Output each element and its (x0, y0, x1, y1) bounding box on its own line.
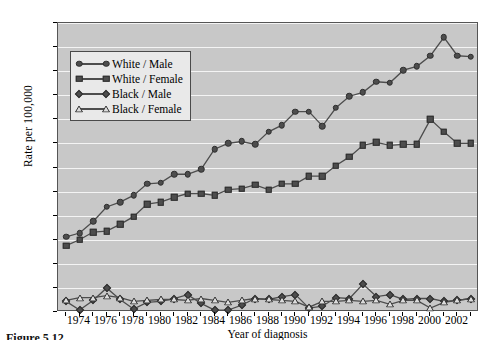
series-marker (103, 228, 110, 235)
legend-label: White / Male (112, 57, 173, 71)
legend-marker (103, 75, 110, 82)
x-axis-tick-mark (375, 312, 376, 316)
series-marker (90, 218, 97, 225)
legend-marker (76, 60, 83, 67)
series-marker (387, 79, 394, 86)
series-marker (224, 299, 232, 306)
x-axis-tick-mark (402, 312, 403, 316)
series-marker (252, 141, 259, 148)
series-marker (373, 79, 380, 86)
series-marker (238, 185, 245, 192)
x-axis-tick-mark (133, 312, 134, 316)
series-marker (468, 140, 475, 147)
series-marker (414, 141, 421, 148)
series-marker (76, 294, 84, 301)
legend-label: Black / Male (112, 87, 171, 101)
series-marker (103, 292, 111, 299)
series-marker (198, 190, 205, 197)
legend-marker (103, 60, 110, 67)
series-marker (373, 139, 380, 146)
series-marker (90, 229, 97, 236)
x-axis-tick-mark (146, 312, 147, 316)
x-axis-tick-mark (187, 312, 188, 316)
x-axis-tick-mark (119, 312, 120, 316)
series-marker (130, 298, 138, 305)
series-marker (346, 154, 353, 161)
x-axis-tick-mark (429, 312, 430, 316)
legend-marker-triangle-icon (76, 102, 109, 116)
series-marker (386, 301, 394, 308)
x-axis-tick-mark (92, 312, 93, 316)
series-marker (238, 297, 246, 304)
legend-marker-diamond-icon (76, 87, 109, 101)
series-marker (184, 171, 191, 178)
series-marker (225, 140, 232, 147)
x-axis-tick-mark (362, 312, 363, 316)
legend-item: White / Female (76, 71, 183, 86)
series-marker (157, 180, 164, 187)
series-marker (360, 89, 367, 96)
series-marker (211, 297, 219, 304)
x-axis-tick-mark (241, 312, 242, 316)
x-axis-tick-mark (227, 312, 228, 316)
legend-marker (75, 105, 83, 112)
x-axis-title: Year of diagnosis (57, 328, 478, 340)
series-marker (143, 297, 151, 304)
series-marker (265, 296, 273, 303)
x-axis-tick-mark (348, 312, 349, 316)
series-marker (279, 122, 286, 129)
series-marker (400, 67, 407, 74)
x-axis-tick-mark (321, 312, 322, 316)
series-marker (332, 298, 340, 305)
x-axis-tick-mark (254, 312, 255, 316)
series-marker (305, 304, 313, 311)
series-marker (318, 298, 326, 305)
legend-label: White / Female (112, 72, 183, 86)
series-marker (252, 182, 259, 189)
legend-marker-circle-icon (76, 57, 109, 71)
series-marker (171, 194, 178, 201)
x-axis-tick-mark (308, 312, 309, 316)
series-marker (184, 190, 191, 197)
series-marker (440, 299, 448, 306)
series-marker (454, 140, 461, 147)
x-axis-tick-mark (281, 312, 282, 316)
series-marker (63, 234, 70, 241)
legend-marker (102, 89, 110, 97)
series-marker (426, 305, 434, 312)
series-marker (441, 34, 448, 41)
x-axis-tick-mark (335, 312, 336, 316)
x-axis-tick-mark (470, 312, 471, 316)
series-marker (76, 237, 83, 244)
series-marker (170, 296, 178, 303)
x-axis-tick-mark (443, 312, 444, 316)
y-axis-title: Rate per 100,000 (22, 36, 34, 216)
series-marker (265, 186, 272, 193)
series-marker (117, 221, 124, 228)
series-marker (279, 181, 286, 188)
series-marker (467, 295, 475, 302)
series-marker (184, 297, 192, 304)
series-marker (225, 186, 232, 193)
series-marker (116, 294, 124, 301)
legend-item: Black / Male (76, 86, 183, 101)
series-marker (387, 142, 394, 149)
series-marker (130, 192, 137, 199)
series-marker (345, 297, 353, 304)
series-marker (372, 297, 380, 304)
figure-container: Rate per 100,000 02.55.07.510.012.515.01… (0, 0, 492, 340)
series-marker (333, 105, 340, 112)
series-marker (346, 93, 353, 100)
legend-label: Black / Female (112, 102, 182, 116)
series-marker (468, 53, 475, 60)
series-marker (63, 242, 70, 249)
series-marker (306, 108, 313, 115)
series-marker (278, 297, 286, 304)
series-marker (171, 171, 178, 178)
legend-item: Black / Female (76, 101, 183, 116)
series-marker (117, 199, 124, 206)
series-marker (103, 204, 110, 211)
legend-item: White / Male (76, 56, 183, 71)
series-marker (360, 142, 367, 149)
series-marker (427, 53, 434, 60)
